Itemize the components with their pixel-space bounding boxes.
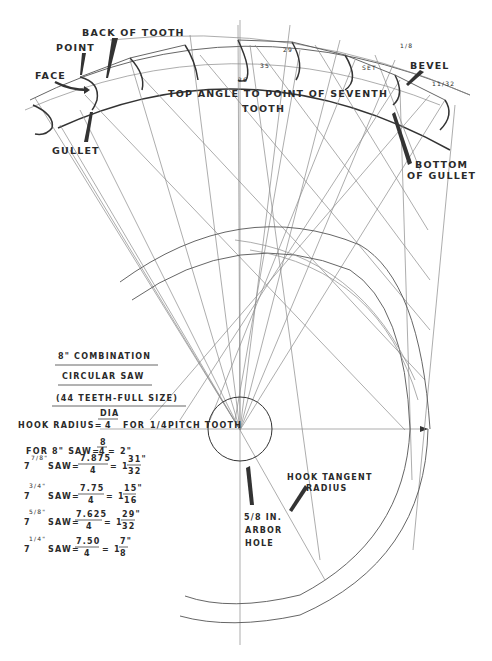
calc-3-result-num: 29" bbox=[122, 510, 141, 519]
radial-lines bbox=[35, 20, 445, 645]
formula-suffix: FOR bbox=[123, 421, 145, 430]
calc-8-numerator: 8 bbox=[100, 438, 107, 447]
label-arbor: ARBOR bbox=[245, 526, 282, 535]
calc-1-size-whole: 7 bbox=[24, 462, 31, 471]
annotation-labels: BACK OF TOOTH POINT FACE GULLET TOP ANGL… bbox=[35, 27, 476, 548]
formula-numerator: DIA bbox=[100, 409, 119, 418]
calc-1-denominator: 4 bbox=[90, 466, 97, 475]
calc-3-result-den: 32 bbox=[122, 522, 136, 531]
calc-3-result-whole: = 1 bbox=[104, 518, 123, 527]
dim-29: 29 bbox=[283, 46, 293, 53]
label-bottom-of-gullet-2: OF GULLET bbox=[407, 170, 476, 181]
title-block: 8" COMBINATION CIRCULAR SAW (44 TEETH-FU… bbox=[52, 352, 186, 406]
dim-set: SET bbox=[362, 64, 377, 71]
calc-3-size-whole: 7 bbox=[24, 518, 31, 527]
arrow-hook-tangent bbox=[289, 485, 308, 512]
calc-1-size-frac: 7/8" bbox=[31, 454, 48, 461]
calc-4-result-whole: = 1 bbox=[102, 545, 121, 554]
calc-2-label: SAW= bbox=[48, 492, 80, 501]
calc-2-size-frac: 3/4" bbox=[29, 482, 46, 489]
label-hook-tangent: HOOK TANGENT bbox=[287, 473, 373, 482]
calc-2-result-den: 16 bbox=[124, 496, 138, 505]
calc-4-size-frac: 1/4" bbox=[29, 535, 46, 542]
label-top-angle-tooth: TOOTH bbox=[242, 103, 285, 114]
label-bevel: BEVEL bbox=[410, 60, 450, 71]
calc-1-label: SAW= bbox=[48, 462, 80, 471]
arrow-arbor bbox=[246, 466, 254, 505]
dim-35: 35 bbox=[260, 62, 270, 69]
title-line-1: 8" COMBINATION bbox=[58, 352, 151, 361]
calc-2-size-whole: 7 bbox=[24, 492, 31, 501]
formula-prefix: HOOK RADIUS= bbox=[18, 421, 103, 430]
calc-4-size-whole: 7 bbox=[24, 545, 31, 554]
calc-1-result-num: 31" bbox=[128, 455, 147, 464]
label-gullet: GULLET bbox=[52, 145, 100, 156]
calc-3-size-frac: 5/8" bbox=[29, 508, 46, 515]
title-line-2: CIRCULAR SAW bbox=[62, 372, 144, 381]
dim-eighth: 1/8 bbox=[400, 42, 413, 49]
dim-bevel: 11/32 bbox=[432, 80, 455, 87]
calc-2-result-num: 15" bbox=[124, 484, 143, 493]
label-bottom-of-gullet: BOTTOM bbox=[415, 159, 468, 170]
calc-3-denominator: 4 bbox=[86, 522, 93, 531]
label-point: POINT bbox=[56, 42, 95, 53]
arrow-bevel bbox=[406, 70, 424, 86]
arrow-back-of-tooth bbox=[106, 38, 118, 78]
saw-calculations: 8 FOR 8" SAW= 4 = 2" 7/8" 7 SAW= 7.875 4… bbox=[24, 438, 147, 558]
label-hook-tangent-radius: RADIUS bbox=[306, 484, 347, 493]
label-top-angle: TOP ANGLE TO POINT OF SEVENTH bbox=[168, 88, 388, 99]
calc-4-denominator: 4 bbox=[84, 549, 91, 558]
formula-pitch-fraction: 1/4 bbox=[150, 421, 168, 430]
calc-2-result-whole: = 1 bbox=[106, 492, 125, 501]
hook-radius-formula: DIA HOOK RADIUS= 4 FOR 1/4 PITCH TOOTH bbox=[18, 409, 242, 430]
formula-pitch-text: PITCH TOOTH bbox=[168, 421, 242, 430]
label-back-of-tooth: BACK OF TOOTH bbox=[82, 27, 185, 38]
dim-26: 26 bbox=[238, 76, 248, 83]
saw-tooth-layout-diagram: BACK OF TOOTH POINT FACE GULLET TOP ANGL… bbox=[0, 0, 492, 661]
formula-denominator: 4 bbox=[105, 421, 112, 430]
calc-2-denominator: 4 bbox=[88, 496, 95, 505]
calc-4-result-num: 7" bbox=[120, 537, 132, 546]
calc-4-numerator: 7.50 bbox=[76, 537, 101, 546]
title-line-3: (44 TEETH-FULL SIZE) bbox=[56, 394, 178, 403]
calc-3-numerator: 7.625 bbox=[76, 510, 107, 519]
calc-3-label: SAW= bbox=[48, 518, 80, 527]
calc-1-numerator: 7.875 bbox=[80, 454, 111, 463]
arrow-point bbox=[80, 53, 86, 75]
calc-4-result-den: 8 bbox=[120, 549, 127, 558]
calc-1-result-den: 32 bbox=[128, 467, 142, 476]
calc-4-label: SAW= bbox=[48, 545, 80, 554]
calc-2-numerator: 7.75 bbox=[80, 484, 105, 493]
label-arbor-size: 5/8 IN. bbox=[244, 513, 282, 522]
calc-1-result-whole: = 1 bbox=[110, 462, 129, 471]
label-arbor-hole: HOLE bbox=[245, 539, 274, 548]
label-face: FACE bbox=[35, 70, 66, 81]
